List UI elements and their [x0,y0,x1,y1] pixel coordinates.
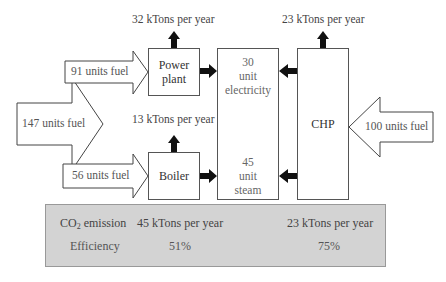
boiler-emission-label: 13 kTons per year [132,113,215,125]
chp-co2-value: 23 kTons per year [287,216,373,231]
summary-panel [45,204,386,267]
efficiency-label: Efficiency [70,239,120,254]
power-plant-emission-arrow [168,31,180,48]
steam-demand: 45 unit steam [217,155,279,197]
steam-name: steam [217,183,279,197]
steam-value: 45 [217,155,279,169]
total-fuel-label: 147 units fuel [22,117,85,129]
boiler-to-steam-arrow [200,169,217,183]
chp-label: CHP [311,117,334,131]
power-plant-fuel-label: 91 units fuel [71,65,129,77]
boiler-fuel-label: 56 units fuel [72,169,130,181]
electricity-value: 30 [217,55,279,69]
power-plant-label-line1: Power [159,58,190,72]
chp-emission-label: 23 kTons per year [282,13,365,25]
separate-efficiency-value: 51% [169,239,191,254]
electricity-name: electricity [217,83,279,97]
power-plant-to-electricity-arrow [200,64,217,78]
chp-to-steam-arrow [279,169,297,183]
boiler-label: Boiler [159,169,189,183]
steam-unit: unit [217,169,279,183]
power-plant-box: Power plant [148,48,200,96]
boiler-emission-arrow [168,135,180,152]
separate-co2-value: 45 kTons per year [137,216,223,231]
chp-box: CHP [297,48,349,200]
chp-efficiency-value: 75% [318,239,340,254]
chp-fuel-label: 100 units fuel [365,120,428,132]
co2-emission-label: CO2 emission [60,216,126,231]
chp-to-electricity-arrow [279,64,297,78]
chp-emission-arrow [317,31,329,48]
electricity-demand: 30 unit electricity [217,55,279,97]
electricity-unit: unit [217,69,279,83]
power-plant-label-line2: plant [162,72,186,86]
boiler-box: Boiler [148,152,200,200]
power-plant-emission-label: 32 kTons per year [132,13,215,25]
